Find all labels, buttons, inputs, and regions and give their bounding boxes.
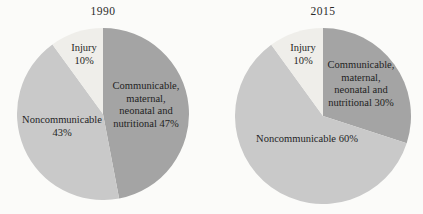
slice-label-line: nutritional 30% bbox=[306, 97, 416, 110]
slice-label-line: Injury bbox=[263, 42, 343, 55]
slice-label-communicable-2015: Communicable, maternal, neonatal and nut… bbox=[306, 59, 416, 109]
slice-label-noncommunicable-2015: Noncommunicable 60% bbox=[234, 133, 380, 146]
slice-label-injury-1990: Injury 10% bbox=[44, 42, 124, 67]
slice-label-line: Communicable, bbox=[306, 59, 416, 72]
slice-label-line: maternal, bbox=[90, 93, 202, 106]
slice-label-line: Injury bbox=[44, 42, 124, 55]
slice-label-line: 10% bbox=[44, 55, 124, 68]
chart-title-1990: 1990 bbox=[3, 5, 203, 17]
slice-label-line: 43% bbox=[10, 127, 114, 140]
slice-label-line: maternal, bbox=[306, 72, 416, 85]
slice-label-noncommunicable-1990: Noncommunicable 43% bbox=[10, 114, 114, 139]
chart-title-2015: 2015 bbox=[223, 5, 423, 17]
slice-label-line: neonatal and bbox=[306, 84, 416, 97]
slice-label-line: Communicable, bbox=[90, 80, 202, 93]
slice-label-line: Noncommunicable bbox=[10, 114, 114, 127]
slice-label-line: Noncommunicable 60% bbox=[234, 133, 380, 146]
